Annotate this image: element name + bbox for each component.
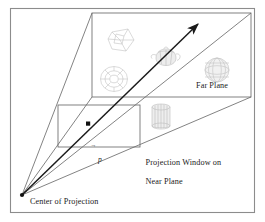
viewing-frustum-figure: Far Plane Projection Window on Near Plan… (0, 0, 265, 222)
projection-window-label-line2: Near Plane (146, 177, 183, 186)
far-plane-label: Far Plane (196, 81, 228, 91)
sphere-icon (205, 58, 229, 82)
center-of-projection-label: Center of Projection (30, 197, 98, 207)
projection-window-label-line1: Projection Window on (146, 158, 222, 167)
scene-objects (101, 29, 230, 129)
frustum-edge-top-left (22, 13, 92, 195)
figure-canvas (0, 0, 265, 222)
point-p-letter: p (98, 155, 102, 164)
vector-bar-icon: → (91, 144, 102, 147)
cylinder-icon (152, 104, 170, 129)
projection-window-label: Projection Window on Near Plane (137, 148, 221, 196)
torus-icon (101, 67, 128, 92)
point-p-label: → p (90, 126, 102, 173)
center-of-projection-point (20, 193, 24, 197)
wireframe-cube-icon (108, 29, 134, 51)
